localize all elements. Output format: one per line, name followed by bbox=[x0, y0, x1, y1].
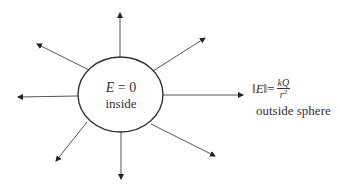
inside-label: inside bbox=[98, 96, 144, 112]
field-arrow-lower-left bbox=[56, 122, 87, 161]
outside-field-formula: ‖E‖= kQ r2 bbox=[252, 78, 290, 100]
field-arrow-upper-right bbox=[153, 38, 205, 71]
outside-sphere-label: outside sphere bbox=[256, 103, 331, 119]
exponent: 2 bbox=[284, 88, 288, 96]
denominator: r2 bbox=[280, 89, 287, 100]
inside-field-equation: E = 0 bbox=[103, 80, 139, 96]
fraction: kQ r2 bbox=[277, 78, 291, 100]
field-arrow-left bbox=[18, 96, 78, 97]
equals-zero: = 0 bbox=[114, 80, 136, 95]
field-arrow-lower-right bbox=[151, 124, 215, 156]
field-arrow-upper-left bbox=[37, 44, 89, 70]
field-symbol-outside: E bbox=[256, 81, 264, 97]
equals-sign: = bbox=[267, 81, 274, 97]
